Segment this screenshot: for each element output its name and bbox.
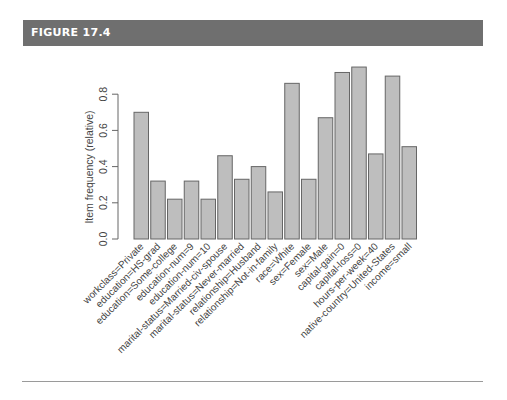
y-tick-label: 0.4: [97, 159, 109, 174]
y-tick-label: 0.6: [97, 123, 109, 138]
bar: [369, 154, 384, 239]
y-axis-label: Item frequency (relative): [83, 110, 95, 223]
bar: [402, 147, 417, 239]
bar: [335, 72, 350, 239]
bar: [201, 199, 216, 239]
bar: [385, 76, 400, 239]
bar: [218, 156, 233, 239]
bar: [352, 67, 367, 239]
bars: [134, 67, 417, 239]
bar: [235, 179, 250, 239]
bar: [168, 199, 183, 239]
bar: [285, 83, 300, 239]
y-tick-label: 0.2: [97, 195, 109, 210]
bottom-rule: [22, 381, 483, 382]
bar: [251, 167, 266, 239]
bar: [302, 179, 317, 239]
bar: [134, 112, 149, 239]
y-axis: 0.00.20.40.60.8: [97, 87, 118, 247]
y-tick-label: 0.0: [97, 232, 109, 247]
y-tick-label: 0.8: [97, 87, 109, 102]
x-axis-labels: workclass=Privateeducation=HS-gradeducat…: [80, 240, 414, 355]
bar: [151, 181, 166, 239]
bar: [318, 118, 333, 239]
bar: [184, 181, 199, 239]
bar-chart: 0.00.20.40.60.8 workclass=Privateeducati…: [0, 0, 507, 400]
bar: [268, 192, 283, 239]
